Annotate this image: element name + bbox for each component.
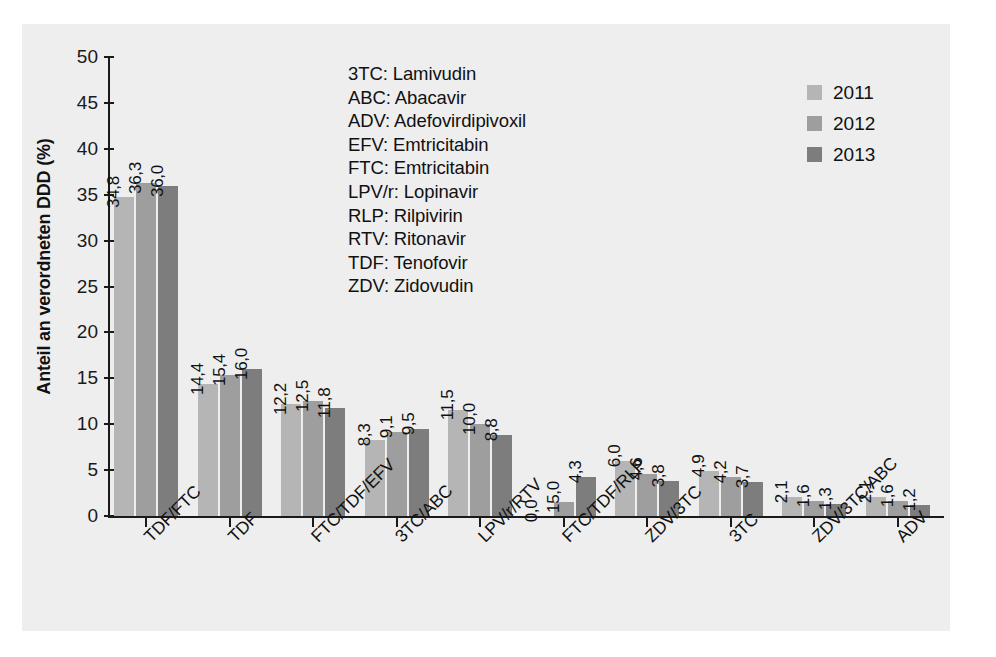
bar-group: 4,94,23,7 <box>699 57 763 516</box>
bar-value-label: 2,1 <box>772 480 792 503</box>
legend-item: 2013 <box>807 141 875 168</box>
abbreviation-entry: FTC: Emtricitabin <box>348 156 526 180</box>
bar <box>158 186 178 516</box>
bar <box>303 401 323 516</box>
bar-group: 6,04,63,8 <box>615 57 679 516</box>
y-axis-tick-label: 5 <box>52 460 98 479</box>
abbreviation-entry: RLP: Rilpivirin <box>348 204 526 228</box>
y-axis-tick-label: 40 <box>52 139 98 158</box>
abbreviation-entry: TDF: Tenofovir <box>348 251 526 275</box>
bar <box>136 183 156 516</box>
bar-value-label: 12,5 <box>293 380 313 412</box>
y-axis-tick-label: 20 <box>52 322 98 341</box>
bar-value-label: 10,0 <box>460 403 480 435</box>
abbreviation-entry: EFV: Emtricitabin <box>348 133 526 157</box>
legend-label: 2012 <box>833 113 875 135</box>
bar-value-label: 36,0 <box>148 165 168 197</box>
abbreviation-key: 3TC: LamivudinABC: AbacavirADV: Adefovir… <box>348 62 526 298</box>
y-axis-tick-label: 25 <box>52 277 98 296</box>
legend-item: 2012 <box>807 110 875 137</box>
bar-group: 12,212,511,8 <box>281 57 345 516</box>
bar-value-label: 11,5 <box>438 390 458 421</box>
bar <box>114 197 134 516</box>
bar-value-label: 3,8 <box>649 465 669 488</box>
bar-group: 0,015,04,3 <box>532 57 596 516</box>
y-axis-tick-label: 10 <box>52 414 98 433</box>
bar-value-label: 36,3 <box>126 162 146 194</box>
abbreviation-entry: ZDV: Zidovudin <box>348 274 526 298</box>
legend-item: 2011 <box>807 79 875 106</box>
bar <box>242 369 262 516</box>
abbreviation-entry: ABC: Abacavir <box>348 86 526 110</box>
bar-value-label: 34,8 <box>104 176 124 208</box>
y-axis-tick-label: 15 <box>52 368 98 387</box>
legend-label: 2013 <box>833 144 875 166</box>
bar-value-label: 15,0 <box>544 481 564 513</box>
bar-group: 34,836,336,0 <box>114 57 178 516</box>
chart-legend: 201120122013 <box>807 79 875 172</box>
bar-value-label: 11,8 <box>315 387 335 418</box>
bar-value-label: 6,0 <box>605 445 625 468</box>
legend-swatch-icon <box>807 85 822 100</box>
y-axis-tick-label: 30 <box>52 231 98 250</box>
bar <box>220 375 240 516</box>
bar-value-label: 4,3 <box>566 460 586 483</box>
y-axis-tick-label: 35 <box>52 185 98 204</box>
y-axis-tick-label: 50 <box>52 47 98 66</box>
bar-value-label: 8,3 <box>355 423 375 446</box>
bar-value-label: 9,5 <box>399 412 419 435</box>
bar-value-label: 16,0 <box>232 348 252 380</box>
bar-value-label: 4,2 <box>711 461 731 484</box>
y-axis-tick-label: 45 <box>52 93 98 112</box>
bar-value-label: 9,1 <box>377 416 397 439</box>
bar-value-label: 15,4 <box>210 354 230 386</box>
y-axis-tick-label: 0 <box>52 506 98 525</box>
abbreviation-entry: LPV/r: Lopinavir <box>348 180 526 204</box>
legend-label: 2011 <box>833 82 874 104</box>
bar <box>281 404 301 516</box>
chart-figure: Anteil an verordneten DDD (%) 5045403530… <box>0 0 996 657</box>
abbreviation-entry: RTV: Ritonavir <box>348 227 526 251</box>
abbreviation-entry: ADV: Adefovirdipivoxil <box>348 109 526 133</box>
bar-value-label: 8,8 <box>482 419 502 442</box>
bar-value-label: 3,7 <box>733 466 753 489</box>
legend-swatch-icon <box>807 116 822 131</box>
legend-swatch-icon <box>807 147 822 162</box>
bar-group: 14,415,416,0 <box>198 57 262 516</box>
bar-value-label: 1,6 <box>794 485 814 508</box>
bar-value-label: 14,4 <box>188 363 208 395</box>
bar-value-label: 12,2 <box>271 383 291 415</box>
bar-value-label: 4,9 <box>689 455 709 478</box>
abbreviation-entry: 3TC: Lamivudin <box>348 62 526 86</box>
